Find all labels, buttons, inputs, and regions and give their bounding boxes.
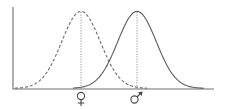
female-symbol-icon — [77, 92, 84, 106]
male-symbol-icon — [131, 91, 143, 103]
distribution-diagram — [0, 0, 226, 109]
male-distribution-curve — [73, 11, 204, 88]
